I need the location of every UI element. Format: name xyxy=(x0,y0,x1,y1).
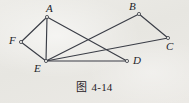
vertex-point-D xyxy=(125,59,128,62)
figure-page: ABCDEF 图4-14 xyxy=(0,0,189,103)
vertices-group xyxy=(19,12,169,62)
vertex-point-A xyxy=(45,15,48,18)
edge-BC xyxy=(139,14,168,38)
vertex-point-F xyxy=(19,40,22,43)
edge-EB xyxy=(46,14,139,61)
vertex-point-E xyxy=(44,59,47,62)
vertex-label-E: E xyxy=(34,63,41,74)
vertex-label-F: F xyxy=(9,35,16,46)
edge-EC xyxy=(46,38,168,61)
edges-group xyxy=(21,14,168,61)
vertex-label-D: D xyxy=(133,55,141,66)
caption-cjk-text: 图 xyxy=(76,81,87,94)
vertex-point-B xyxy=(137,12,140,15)
caption-number: 4-14 xyxy=(92,81,113,93)
edge-AF xyxy=(21,17,47,42)
edge-AE xyxy=(46,17,47,61)
vertex-label-A: A xyxy=(46,3,53,14)
edge-FE xyxy=(21,42,46,61)
vertex-label-C: C xyxy=(166,41,173,52)
figure-caption: 图4-14 xyxy=(0,82,189,93)
vertex-label-B: B xyxy=(129,1,136,12)
